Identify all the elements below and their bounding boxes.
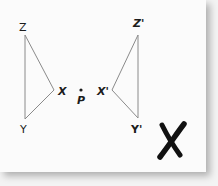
reflection-diagram: Z X Y P Z' X' Y': [0, 0, 218, 186]
image-triangle: [112, 35, 138, 118]
incorrect-x-mark-icon: [160, 124, 184, 157]
center-point-dot: [79, 88, 82, 91]
vertex-label-x-prime: X': [96, 85, 109, 98]
vertex-label-z-prime: Z': [132, 17, 144, 30]
original-triangle: [25, 35, 54, 119]
vertex-label-z: Z: [19, 21, 27, 34]
vertex-label-x: X: [57, 85, 67, 98]
vertex-label-y: Y: [19, 123, 27, 136]
vertex-label-y-prime: Y': [130, 123, 142, 136]
center-point-label: P: [77, 94, 85, 107]
